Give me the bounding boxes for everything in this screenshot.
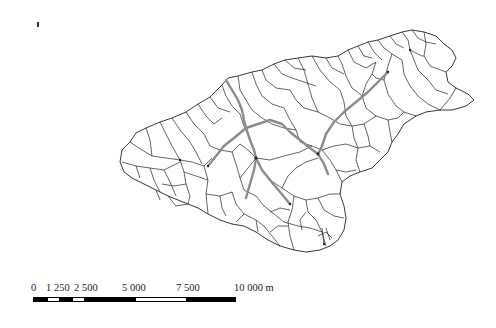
scale-segment bbox=[136, 298, 186, 301]
scale-segment bbox=[84, 298, 136, 301]
scale-label-5000: 5 000 bbox=[122, 282, 146, 293]
scale-label-0: 0 bbox=[31, 282, 36, 293]
scale-label-7500: 7 500 bbox=[176, 282, 200, 293]
basin-outline bbox=[120, 30, 474, 252]
watershed-map bbox=[0, 0, 496, 328]
scale-bar-labels: 0 1 250 2 500 5 000 7 500 10 000 m bbox=[0, 282, 496, 296]
scale-segment bbox=[73, 298, 84, 301]
scale-label-1250: 1 250 bbox=[46, 282, 70, 293]
scale-label-2500: 2 500 bbox=[74, 282, 98, 293]
scale-label-10000: 10 000 m bbox=[234, 282, 274, 293]
river-network bbox=[208, 72, 388, 204]
scale-segment bbox=[59, 298, 73, 301]
sub-basin-lines bbox=[122, 30, 456, 250]
scale-segment bbox=[48, 298, 59, 301]
scale-segment bbox=[186, 298, 235, 301]
scale-segment bbox=[34, 298, 48, 301]
scale-bar bbox=[33, 297, 236, 302]
